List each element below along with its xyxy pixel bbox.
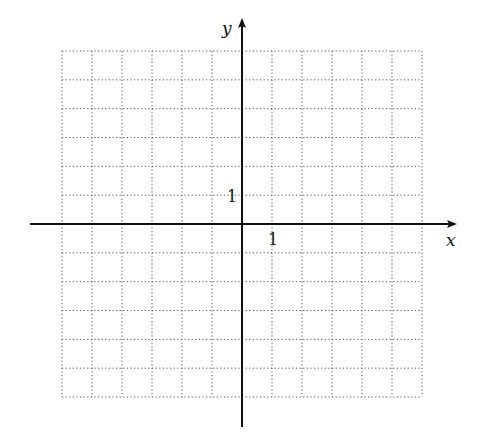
- coordinate-plane: x y 1 1: [0, 0, 485, 446]
- y-axis-label: y: [221, 18, 232, 38]
- y-tick-label-1: 1: [227, 187, 237, 206]
- x-axis-label: x: [446, 230, 456, 250]
- x-tick-label-1: 1: [268, 230, 278, 249]
